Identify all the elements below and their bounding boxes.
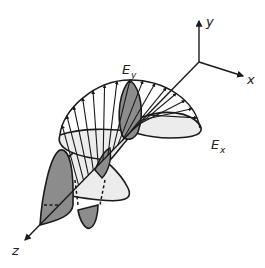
ey-label: E y <box>122 62 137 80</box>
ey-lobe-bottom <box>78 205 98 228</box>
svg-text:E: E <box>122 62 131 77</box>
svg-text:y: y <box>130 70 137 80</box>
ey-lobe-front <box>40 150 73 225</box>
svg-text:E: E <box>211 137 220 152</box>
z-axis-label: z <box>11 243 20 258</box>
z-axis <box>25 62 199 240</box>
svg-text:x: x <box>219 145 226 155</box>
wave-diagram: y x z E y E x <box>0 0 265 268</box>
x-axis-label: x <box>246 72 255 87</box>
y-axis-label: y <box>205 14 214 29</box>
x-axis <box>199 62 243 76</box>
ex-label: E x <box>211 137 226 155</box>
